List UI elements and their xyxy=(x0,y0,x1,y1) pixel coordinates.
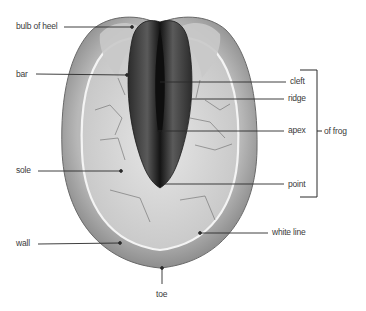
label-apex: apex xyxy=(288,125,306,135)
label-white-line: white line xyxy=(272,227,305,237)
label-bulb-of-heel: bulb of heel xyxy=(16,21,58,31)
label-of-frog: of frog xyxy=(324,126,347,136)
label-sole: sole xyxy=(16,165,31,175)
hoof-diagram: bulb of heel bar sole wall toe cleft rid… xyxy=(0,0,366,311)
label-toe: toe xyxy=(156,289,167,299)
label-wall: wall xyxy=(16,238,30,248)
label-cleft: cleft xyxy=(290,76,305,86)
hoof-illustration xyxy=(0,0,366,311)
label-point: point xyxy=(288,179,305,189)
label-bar: bar xyxy=(16,69,28,79)
label-ridge: ridge xyxy=(288,93,306,103)
